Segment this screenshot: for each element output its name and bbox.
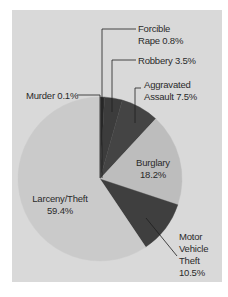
label-larceny-line1: Larceny/Theft bbox=[28, 193, 92, 205]
label-robbery-text: Robbery 3.5% bbox=[138, 55, 196, 67]
label-larceny-theft: Larceny/Theft 59.4% bbox=[28, 193, 92, 216]
label-burglary-line1: Burglary bbox=[127, 157, 179, 169]
label-aggravated-assault: Aggravated Assault 7.5% bbox=[144, 79, 197, 102]
label-assault-line1: Aggravated bbox=[144, 79, 197, 91]
label-burglary-line2: 18.2% bbox=[127, 169, 179, 181]
label-burglary: Burglary 18.2% bbox=[127, 157, 179, 180]
label-murder-text: Murder 0.1% bbox=[26, 90, 78, 102]
label-robbery: Robbery 3.5% bbox=[138, 55, 196, 67]
label-forcible-rape-line1: Forcible bbox=[138, 23, 183, 35]
label-mvt-line3: Theft bbox=[179, 255, 208, 267]
label-mvt-line1: Motor bbox=[179, 231, 208, 243]
label-mvt-line2: Vehicle bbox=[179, 243, 208, 255]
label-motor-vehicle-theft: Motor Vehicle Theft 10.5% bbox=[179, 231, 208, 279]
label-forcible-rape: Forcible Rape 0.8% bbox=[138, 23, 183, 46]
label-assault-line2: Assault 7.5% bbox=[144, 91, 197, 103]
label-mvt-line4: 10.5% bbox=[179, 267, 208, 279]
label-forcible-rape-line2: Rape 0.8% bbox=[138, 35, 183, 47]
label-larceny-line2: 59.4% bbox=[28, 205, 92, 217]
label-murder: Murder 0.1% bbox=[26, 90, 78, 102]
